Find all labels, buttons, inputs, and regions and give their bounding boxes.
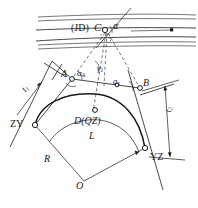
label-gamma: γ1 [97,64,103,74]
alpha-s-sub: s [118,80,120,86]
label-jd: (JD) [71,23,89,33]
label-t2: t2 [164,107,174,113]
jd-base-ticks [101,34,111,43]
road-line-5 [38,42,196,45]
label-alpha-s: as [113,77,120,87]
alpha-a-sub: A [82,72,85,78]
label-yz: YZ [150,152,163,162]
t2-sub: 2 [167,107,173,110]
point-a-marker [70,77,75,82]
t2-dim-line [165,86,170,157]
road-line-1 [38,14,196,17]
road-direction-marker [131,28,173,31]
label-point-b: B [143,78,149,88]
back-tangent-line [10,61,52,147]
label-d-qz: D(QZ) [74,116,101,126]
angle-alpha-b-arc [129,81,133,91]
jd-intersection-point [102,27,107,32]
label-point-a: A [61,69,67,79]
point-b-marker [138,86,143,91]
gamma-sub: 1 [101,67,104,73]
label-alpha-a: αA [77,69,85,79]
forward-tangent-line [128,70,163,190]
label-c: C [94,22,101,33]
label-zy: ZY [10,119,23,129]
label-center-o: O [76,181,83,191]
point-qz-marker [93,108,98,113]
label-radius: R [44,154,50,164]
label-curve-length: L [89,131,95,141]
road-line-4 [36,37,196,41]
point-yz-marker [142,145,147,150]
leg-a-to-b [72,79,140,88]
label-alpha: α [113,21,118,31]
radius-left [35,125,84,181]
radius-right [84,148,145,181]
point-zy-marker [32,122,37,127]
angle-at-a-small [66,83,76,87]
